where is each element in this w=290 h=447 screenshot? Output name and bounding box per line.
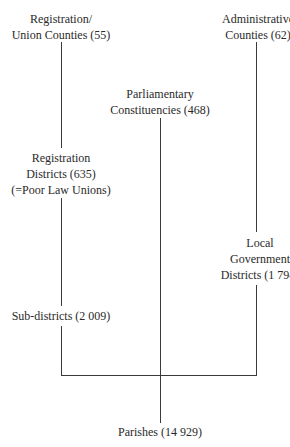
node-sub-districts: Sub-districts (2 009) [0, 308, 122, 324]
edge-parliamentary-to-parishes [160, 118, 161, 423]
node-label: Districts (1 794) [210, 267, 290, 283]
node-local-government-districts: Local Government Districts (1 794) [210, 235, 290, 283]
edge-lgd-down [256, 285, 257, 376]
edge-horizontal-connector [61, 375, 257, 376]
node-label: (=Poor Law Unions) [0, 182, 122, 198]
node-label: Districts (635) [0, 166, 122, 182]
node-label: Constituencies (468) [100, 102, 220, 118]
edge-sub-districts-down [61, 326, 62, 376]
node-parishes: Parishes (14 929) [100, 424, 220, 440]
node-label: Administrative [208, 11, 290, 27]
node-label: Union Counties (55) [0, 27, 122, 43]
node-parliamentary-constituencies: Parliamentary Constituencies (468) [100, 86, 220, 118]
node-administrative-counties: Administrative Counties (62) [208, 11, 290, 43]
node-label: Local [210, 235, 290, 251]
node-label: Government [210, 251, 290, 267]
edge-admin-counties-to-lgd [256, 42, 257, 232]
node-label: Sub-districts (2 009) [0, 308, 122, 324]
node-label: Registration [0, 150, 122, 166]
edge-reg-counties-to-reg-districts [61, 42, 62, 148]
node-registration-union-counties: Registration/ Union Counties (55) [0, 11, 122, 43]
node-label: Parishes (14 929) [100, 424, 220, 440]
node-label: Parliamentary [100, 86, 220, 102]
node-registration-districts: Registration Districts (635) (=Poor Law … [0, 150, 122, 198]
edge-reg-districts-to-sub-districts [61, 198, 62, 306]
node-label: Counties (62) [208, 27, 290, 43]
node-label: Registration/ [0, 11, 122, 27]
